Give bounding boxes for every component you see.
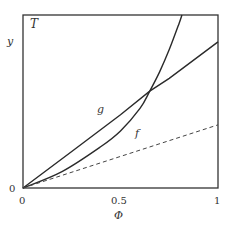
curve-f: [23, 15, 182, 188]
x-tick-1: 1: [214, 195, 220, 206]
y-tick-0: 0: [9, 183, 15, 194]
plot-frame: [23, 15, 218, 188]
x-tick-0: 0: [19, 195, 25, 206]
x-tick-0.5: 0.5: [111, 195, 127, 206]
chart: T y 0 0 0.5 1 Φ g f: [0, 0, 230, 231]
dashed-line: [23, 125, 218, 188]
curve-g: [23, 42, 218, 188]
label-f: f: [134, 127, 141, 140]
panel-label: T: [30, 17, 39, 31]
label-g: g: [97, 103, 104, 116]
y-axis-label: y: [6, 35, 14, 48]
x-axis-label: Φ: [114, 209, 123, 222]
